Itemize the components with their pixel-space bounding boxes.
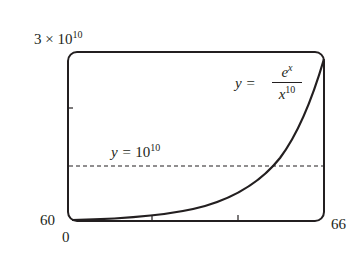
line-lhs-text: y =: [111, 144, 132, 160]
curve-label-lhs: y =: [235, 76, 256, 91]
y-max-base: 3 × 10: [34, 31, 72, 47]
line-base: 10: [135, 144, 150, 160]
y-min-label: 0: [62, 230, 70, 245]
y-max-exponent: 10: [72, 29, 82, 40]
fraction-bar: [272, 82, 302, 83]
x-min-label: 60: [40, 213, 55, 228]
numerator-exponent: x: [288, 62, 292, 73]
line-exponent: 10: [150, 142, 160, 153]
y-max-label: 3 × 1010: [34, 30, 82, 47]
curve-lhs-text: y =: [235, 75, 256, 91]
line-label: y = 1010: [111, 143, 160, 160]
x-max-label: 66: [331, 217, 346, 232]
fraction-denominator: x10: [279, 85, 296, 102]
denominator-exponent: 10: [285, 84, 295, 95]
fraction-numerator: ex: [281, 63, 292, 80]
curve-label-fraction: ex x10: [272, 63, 302, 102]
